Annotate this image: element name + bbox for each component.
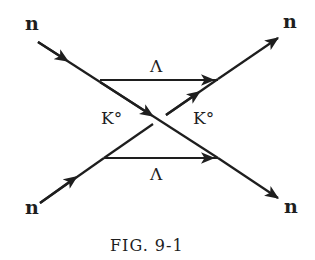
label-incoming-neutron-top: n xyxy=(25,14,39,33)
label-lambda-bottom: Λ xyxy=(150,166,162,183)
incoming-neutron-bottom-line xyxy=(40,158,104,203)
label-kaon-left: K° xyxy=(101,110,122,127)
label-outgoing-neutron-bottom: n xyxy=(284,197,298,216)
label-incoming-neutron-bottom: n xyxy=(25,198,39,217)
feynman-diagram: n n n n Λ Λ K° K° FIG. 9-1 xyxy=(0,0,315,260)
figure-caption: FIG. 9-1 xyxy=(110,236,184,255)
label-lambda-top: Λ xyxy=(150,58,162,75)
incoming-neutron-top-line xyxy=(38,42,100,82)
label-outgoing-neutron-top: n xyxy=(283,12,297,31)
outgoing-neutron-bottom-line xyxy=(218,158,278,198)
label-kaon-right: K° xyxy=(193,110,214,127)
outgoing-neutron-top-line xyxy=(218,38,278,79)
diagram-lines xyxy=(0,0,315,260)
